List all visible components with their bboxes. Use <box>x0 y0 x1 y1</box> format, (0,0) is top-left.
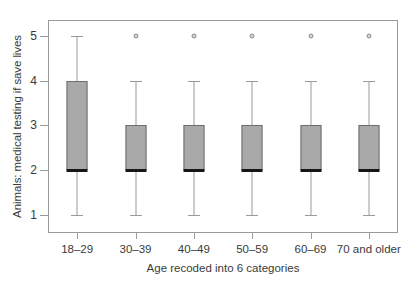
y-axis-tick <box>40 170 48 171</box>
whisker-cap-upper <box>188 81 200 82</box>
box-iqr[interactable] <box>125 125 146 170</box>
median-line <box>183 169 204 172</box>
x-axis-tick <box>194 233 195 239</box>
whisker-cap-lower <box>305 215 317 216</box>
x-axis-tick <box>252 233 253 239</box>
boxplot-figure: Animals: medical testing if save lives 1… <box>0 0 419 285</box>
outlier-point[interactable] <box>250 33 255 38</box>
median-line <box>125 169 146 172</box>
whisker-cap-lower <box>130 215 142 216</box>
x-axis-tick-label: 50–59 <box>236 243 268 256</box>
box-iqr[interactable] <box>300 125 321 170</box>
x-axis-tick <box>77 233 78 239</box>
y-axis-tick-label: 5 <box>24 30 37 42</box>
y-axis-tick-label: 1 <box>24 209 37 221</box>
whisker-upper <box>310 81 311 126</box>
whisker-lower <box>252 170 253 215</box>
whisker-cap-upper <box>246 81 258 82</box>
y-axis-tick <box>40 125 48 126</box>
y-axis-tick-label: 4 <box>24 75 37 87</box>
box-iqr[interactable] <box>242 125 263 170</box>
whisker-lower <box>368 170 369 215</box>
median-line <box>300 169 321 172</box>
whisker-cap-lower <box>246 215 258 216</box>
y-axis-tick <box>40 215 48 216</box>
x-axis-tick <box>311 233 312 239</box>
y-axis-tick <box>40 81 48 82</box>
x-axis-tick <box>369 233 370 239</box>
plot-frame <box>48 20 398 233</box>
outlier-point[interactable] <box>191 33 196 38</box>
x-axis-title: Age recoded into 6 categories <box>48 262 398 274</box>
whisker-cap-lower <box>188 215 200 216</box>
y-axis-tick <box>40 36 48 37</box>
box-iqr[interactable] <box>183 125 204 170</box>
x-axis-tick-label: 40–49 <box>178 243 210 256</box>
whisker-upper <box>368 81 369 126</box>
y-axis-tick-label: 3 <box>24 119 37 131</box>
whisker-upper <box>193 81 194 126</box>
x-axis-tick-label: 30–39 <box>120 243 152 256</box>
box-iqr[interactable] <box>358 125 379 170</box>
whisker-lower <box>310 170 311 215</box>
outlier-point[interactable] <box>366 33 371 38</box>
x-axis-tick-label: 60–69 <box>295 243 327 256</box>
outlier-point[interactable] <box>308 33 313 38</box>
whisker-upper <box>77 36 78 81</box>
whisker-cap-upper <box>363 81 375 82</box>
x-axis-tick <box>136 233 137 239</box>
median-line <box>67 169 88 172</box>
whisker-upper <box>135 81 136 126</box>
whisker-upper <box>252 81 253 126</box>
median-line <box>358 169 379 172</box>
whisker-lower <box>77 170 78 215</box>
outlier-point[interactable] <box>133 33 138 38</box>
whisker-cap-upper <box>71 36 83 37</box>
box-iqr[interactable] <box>67 81 88 171</box>
y-axis-tick-label: 2 <box>24 164 37 176</box>
whisker-cap-lower <box>71 215 83 216</box>
x-axis-tick-label: 70 and older <box>337 243 401 256</box>
whisker-lower <box>193 170 194 215</box>
whisker-cap-upper <box>130 81 142 82</box>
whisker-lower <box>135 170 136 215</box>
x-axis-tick-label: 18–29 <box>61 243 93 256</box>
whisker-cap-lower <box>363 215 375 216</box>
median-line <box>242 169 263 172</box>
whisker-cap-upper <box>305 81 317 82</box>
